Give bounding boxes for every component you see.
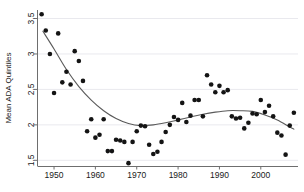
data-point — [238, 115, 243, 120]
data-point — [176, 118, 181, 123]
data-point — [118, 138, 123, 143]
data-point — [147, 142, 152, 147]
data-point — [134, 129, 139, 134]
data-point — [85, 129, 90, 134]
data-point — [188, 113, 193, 118]
data-point — [155, 150, 160, 155]
data-point — [213, 90, 218, 95]
data-point — [56, 31, 61, 36]
data-point — [64, 69, 69, 74]
data-point — [139, 123, 144, 128]
gridlines — [38, 19, 299, 161]
data-point — [196, 98, 201, 103]
x-tick-label: 1970 — [127, 170, 146, 180]
scatter-plot: 1.522.533.5 195019601970198019902000 Mea… — [0, 0, 304, 192]
data-point — [254, 112, 259, 117]
data-point — [101, 117, 106, 122]
data-point — [39, 12, 44, 17]
data-point — [279, 133, 284, 138]
data-point — [60, 80, 65, 85]
data-point — [151, 152, 156, 157]
data-point — [89, 117, 94, 122]
y-tick-label: 2.5 — [27, 83, 37, 95]
data-point — [126, 161, 131, 166]
data-point — [250, 111, 255, 116]
data-point — [258, 98, 263, 103]
data-point — [209, 82, 214, 87]
data-point — [114, 137, 119, 142]
data-point — [110, 149, 115, 154]
data-point — [97, 133, 102, 138]
data-point — [159, 140, 164, 145]
data-point — [292, 111, 297, 116]
y-axis-label: Mean ADA Quintiles — [4, 52, 13, 123]
data-point — [93, 135, 98, 140]
y-tick-label: 2 — [27, 122, 37, 127]
data-point — [275, 130, 280, 135]
x-tick-label: 1990 — [210, 170, 229, 180]
data-point — [168, 123, 173, 128]
x-tick-label: 1960 — [86, 170, 105, 180]
data-point — [172, 115, 177, 120]
data-point — [192, 98, 197, 103]
data-point — [52, 91, 57, 96]
x-axis-ticks: 195019601970198019902000 — [45, 166, 271, 180]
data-point — [225, 88, 230, 93]
data-point — [77, 59, 82, 64]
data-point — [242, 126, 247, 131]
data-point — [81, 79, 86, 84]
data-point — [267, 103, 272, 108]
data-point — [180, 101, 185, 106]
data-point — [205, 73, 210, 78]
data-points — [39, 12, 296, 166]
data-point — [122, 140, 127, 145]
data-point — [143, 124, 148, 129]
data-point — [72, 49, 77, 54]
data-point — [271, 114, 276, 119]
data-point — [221, 90, 226, 95]
data-point — [163, 130, 168, 135]
data-point — [263, 110, 268, 115]
data-point — [283, 152, 288, 157]
data-point — [68, 82, 73, 87]
data-point — [43, 28, 48, 33]
x-tick-label: 1980 — [169, 170, 188, 180]
y-tick-label: 3.5 — [27, 12, 37, 24]
y-tick-label: 3 — [26, 51, 36, 56]
data-point — [217, 84, 222, 89]
data-point — [201, 114, 206, 119]
data-point — [287, 123, 292, 128]
data-point — [105, 149, 110, 154]
data-point — [246, 120, 251, 125]
y-tick-label: 1.5 — [27, 154, 37, 166]
chart-figure: 1.522.533.5 195019601970198019902000 Mea… — [0, 0, 304, 192]
data-point — [130, 140, 135, 145]
y-axis-ticks: 1.522.533.5 — [26, 12, 37, 166]
data-point — [234, 116, 239, 121]
data-point — [230, 114, 235, 119]
x-tick-label: 2000 — [251, 170, 270, 180]
x-tick-label: 1950 — [45, 170, 64, 180]
data-point — [184, 120, 189, 125]
data-point — [48, 52, 53, 57]
